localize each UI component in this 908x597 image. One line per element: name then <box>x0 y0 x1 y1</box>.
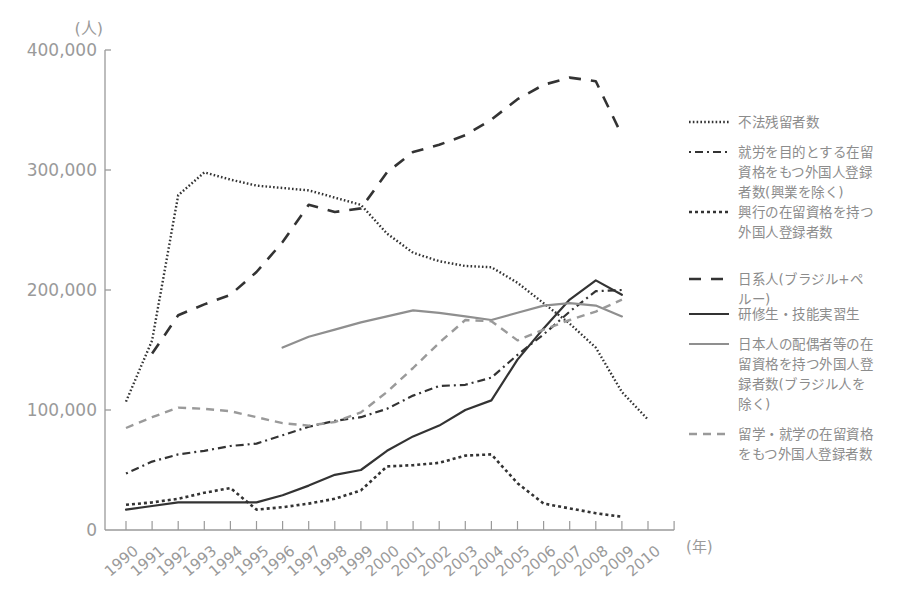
legend-line-sample-icon <box>689 424 729 444</box>
series-line-4 <box>126 280 622 509</box>
legend-label-line: 日系人(ブラジル+ペ <box>738 269 908 289</box>
y-tick-label: 400,000 <box>27 40 97 60</box>
legend-label: 研修生・技能実習生 <box>738 304 908 324</box>
legend-label: 日本人の配偶者等の在留資格を持つ外国人登録者数(ブラジル人を除く) <box>738 334 908 414</box>
legend-label-line: 研修生・技能実習生 <box>738 304 908 324</box>
x-axis-unit: (年) <box>686 538 713 556</box>
legend-label-line: 除く) <box>738 394 908 414</box>
legend-label: 不法残留者数 <box>738 112 908 132</box>
legend-line-sample-icon <box>689 269 729 289</box>
y-tick-label: 100,000 <box>27 400 97 420</box>
legend-line-sample-icon <box>689 202 729 222</box>
legend-label: 就労を目的とする在留資格をもつ外国人登録者数(興業を除く) <box>738 142 908 202</box>
y-tick-label: 0 <box>86 520 97 540</box>
series-line-3 <box>152 78 622 354</box>
series-line-2 <box>126 454 622 516</box>
legend-label-line: 留資格を持つ外国人登 <box>738 354 908 374</box>
y-tick-label: 200,000 <box>27 280 97 300</box>
series-line-0 <box>126 172 648 419</box>
legend-label-line: 日本人の配偶者等の在 <box>738 334 908 354</box>
legend-label-line: 資格をもつ外国人登録 <box>738 162 908 182</box>
legend-label-line: 外国人登録者数 <box>738 222 908 242</box>
legend-line-sample-icon <box>689 304 729 324</box>
legend-line-sample-icon <box>689 142 729 162</box>
legend-label-line: をもつ外国人登録者数 <box>738 444 908 464</box>
legend-label: 興行の在留資格を持つ外国人登録者数 <box>738 202 908 242</box>
series-line-5 <box>283 303 622 347</box>
y-tick-label: 300,000 <box>27 160 97 180</box>
legend-line-sample-icon <box>689 112 729 132</box>
legend-label-line: 就労を目的とする在留 <box>738 142 908 162</box>
legend-label-line: 者数(興業を除く) <box>738 182 908 202</box>
series-line-1 <box>126 290 622 474</box>
legend-label-line: 不法残留者数 <box>738 112 908 132</box>
legend-line-sample-icon <box>689 334 729 354</box>
chart-series <box>126 78 648 517</box>
legend-label-line: 興行の在留資格を持つ <box>738 202 908 222</box>
legend-label-line: 録者数(ブラジル人を <box>738 374 908 394</box>
legend-label: 留学・就学の在留資格をもつ外国人登録者数 <box>738 424 908 464</box>
chart-axes: 0100,000200,000300,000400,000(人)19901991… <box>27 19 713 580</box>
legend-label: 日系人(ブラジル+ペルー) <box>738 269 908 309</box>
y-axis-unit: (人) <box>75 19 103 38</box>
legend-label-line: 留学・就学の在留資格 <box>738 424 908 444</box>
